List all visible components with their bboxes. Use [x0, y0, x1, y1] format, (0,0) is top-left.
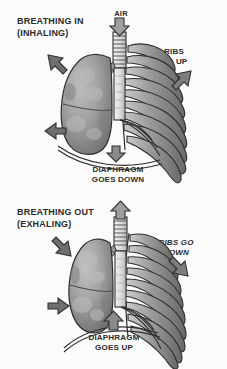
air-arrow-exhale — [111, 201, 130, 219]
breathing-diagram: BREATHING IN (INHALING) AIR RIBS GO UP D… — [0, 0, 227, 369]
lung-arrow-upper-inhale — [48, 55, 67, 74]
diaphragm-arrow-inhale — [107, 146, 125, 162]
inhale-illustration — [0, 0, 227, 185]
sternum-inhale — [114, 68, 125, 120]
panel-inhaling: BREATHING IN (INHALING) AIR RIBS GO UP D… — [0, 0, 227, 185]
lung-arrow-upper-exhale — [52, 237, 71, 256]
panel-exhaling: BREATHING OUT (EXHALING) RIBS GO DOWN DI… — [0, 185, 227, 369]
lung-inhale — [61, 54, 112, 154]
exhale-illustration — [0, 185, 227, 369]
ribcage-exhale — [125, 233, 186, 369]
lung-arrow-lower-exhale — [48, 298, 69, 314]
sternum-exhale — [115, 251, 126, 307]
ribcage-inhale — [122, 44, 187, 183]
